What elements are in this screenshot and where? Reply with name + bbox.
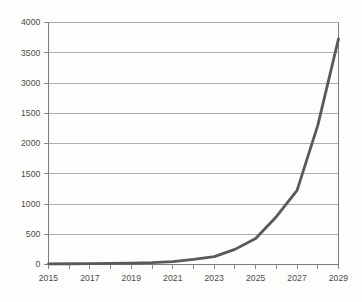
y-axis-tick-label: 0 <box>36 259 41 269</box>
y-axis-tick-label: 1000 <box>21 199 41 209</box>
y-axis-tick-label: 2000 <box>21 138 41 148</box>
chart-canvas: 05001000150020001500300035004000 2015201… <box>0 0 362 302</box>
y-axis-tick-label: 4000 <box>21 17 41 27</box>
y-axis-labels: 05001000150020001500300035004000 <box>21 17 41 269</box>
gridlines <box>49 23 339 235</box>
x-axis-tick-label: 2023 <box>204 273 224 283</box>
x-axis-tick-label: 2017 <box>80 273 100 283</box>
x-axis-tick-label: 2025 <box>246 273 266 283</box>
x-axis-labels: 20152017201920212023202520272029 <box>39 273 349 283</box>
x-axis-tick-marks <box>49 265 339 270</box>
x-axis-tick-label: 2019 <box>122 273 142 283</box>
line-chart: 05001000150020001500300035004000 2015201… <box>0 0 362 302</box>
y-axis-tick-label: 3000 <box>21 78 41 88</box>
y-axis-tick-label: 1500 <box>21 108 41 118</box>
x-axis-tick-label: 2021 <box>163 273 183 283</box>
y-axis-tick-marks <box>44 23 49 265</box>
y-axis-tick-label: 3500 <box>21 48 41 58</box>
x-axis-tick-label: 2027 <box>287 273 307 283</box>
y-axis-tick-label: 1500 <box>21 169 41 179</box>
series-line-value <box>49 39 339 264</box>
x-axis-tick-label: 2029 <box>329 273 349 283</box>
x-axis-tick-label: 2015 <box>39 273 59 283</box>
data-series <box>49 39 339 264</box>
y-axis-tick-label: 500 <box>26 229 41 239</box>
